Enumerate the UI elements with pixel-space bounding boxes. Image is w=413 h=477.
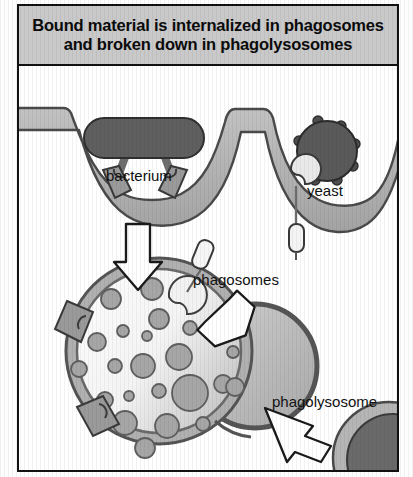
figure-title: Bound material is internalized in phagos… xyxy=(19,16,397,54)
phagocytosis-figure: Bound material is internalized in phagos… xyxy=(0,0,413,477)
bacterium-particle xyxy=(84,118,204,158)
arrow-lysosome xyxy=(265,408,331,462)
lysosome-body xyxy=(333,402,397,470)
diagram-canvas: bacterium yeast phagosomes phagolysosome… xyxy=(19,66,397,470)
label-yeast: yeast xyxy=(307,182,343,199)
figure-title-bar: Bound material is internalized in phagos… xyxy=(17,4,399,66)
yeast-vesicle xyxy=(289,224,304,252)
phagolysosome-vesicle xyxy=(190,238,216,271)
title-line-1: Bound material is internalized in phagos… xyxy=(19,16,397,35)
title-line-2: and broken down in phagolysosomes xyxy=(19,35,397,54)
label-phagosomes: phagosomes xyxy=(193,271,279,288)
label-phagolysosome: phagolysosome xyxy=(272,393,377,410)
label-bacterium: bacterium xyxy=(106,167,172,184)
